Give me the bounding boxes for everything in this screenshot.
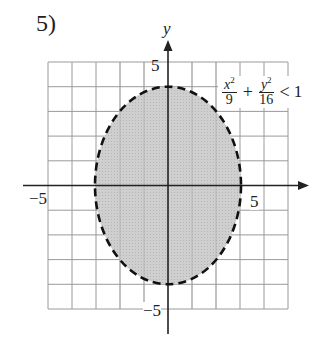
- plus-sign: +: [243, 82, 253, 103]
- x-axis-arrow-icon: [298, 181, 309, 190]
- exponent: 2: [267, 75, 272, 85]
- fraction-x-squared-over-9: x2 9: [222, 76, 237, 108]
- inequality-label: x2 9 + y2 16 < 1: [218, 76, 304, 108]
- coordinate-plane: [0, 0, 310, 341]
- y-tick-neg5: −5: [143, 302, 161, 319]
- x-tick-neg5: −5: [29, 190, 47, 207]
- x-tick-5: 5: [250, 193, 259, 210]
- less-than-sign: <: [280, 82, 290, 103]
- denominator-9: 9: [226, 93, 233, 108]
- rhs-value: 1: [294, 82, 303, 102]
- fraction-y-squared-over-16: y2 16: [259, 76, 274, 108]
- y-tick-5: 5: [151, 57, 160, 74]
- y-axis-label: y: [163, 20, 171, 37]
- y-axis-arrow-icon: [164, 40, 173, 51]
- exponent: 2: [230, 75, 235, 85]
- denominator-16: 16: [259, 93, 273, 108]
